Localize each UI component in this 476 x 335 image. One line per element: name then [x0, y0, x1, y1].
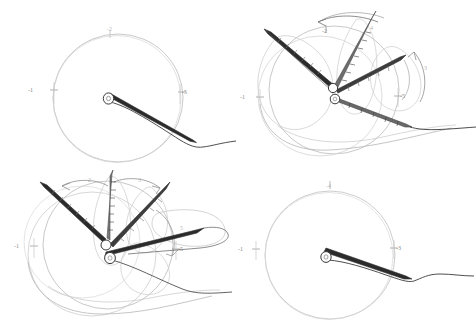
label-top-right: 3 — [138, 177, 141, 183]
label-top: -2 — [107, 26, 112, 32]
label-right: -3 — [396, 245, 401, 251]
panel-1-arm — [103, 93, 236, 147]
rotation-arrow-top-head — [318, 19, 326, 26]
label-left: -1 — [238, 246, 243, 252]
pivot-joint-upper — [328, 83, 337, 92]
panel-bottom-right: -4 -1 -3 — [238, 168, 476, 335]
label-left: -1 — [240, 94, 245, 100]
panel-bottom-left: 2 3 -1 -5 5 — [0, 168, 238, 335]
pivot-joint — [321, 252, 331, 263]
label-top-left: 2 — [88, 177, 91, 183]
pivot-joint-lower — [105, 252, 116, 263]
arm-d-tail — [410, 127, 476, 130]
label-right: -5 — [178, 246, 183, 252]
guide-sweep-lower-2 — [278, 125, 456, 142]
label-right: -5 — [400, 93, 405, 99]
arm-lower-curve — [110, 102, 236, 147]
rotation-arrow-top — [318, 16, 378, 22]
label-left: -1 — [28, 87, 33, 93]
arm-segment-main — [324, 248, 412, 279]
panel-4-arm — [321, 248, 474, 282]
panel-3-guides — [24, 176, 225, 316]
guide-circle-third — [24, 186, 140, 298]
arm-b — [107, 170, 113, 240]
figure-root: -2 -1 -5 — [0, 0, 476, 335]
guide-sweep-lower — [28, 262, 212, 314]
label-upper-right: 4 — [370, 25, 373, 31]
label-mid-right: 5 — [180, 225, 183, 231]
pivot-joint-upper — [101, 240, 111, 250]
panel-top-left: -2 -1 -5 — [0, 0, 238, 167]
arm-c — [336, 55, 406, 93]
label-right: -5 — [182, 89, 187, 95]
arm-b — [334, 11, 376, 89]
pivot-joint — [103, 93, 113, 104]
label-top: -4 — [326, 183, 331, 189]
panel-1-ticks — [50, 30, 186, 104]
arm-d-outline — [128, 227, 228, 254]
panel-3-arms — [40, 170, 232, 293]
guide-sweep-lower — [260, 104, 452, 150]
label-top: -2 — [322, 28, 327, 34]
panel-top-right: -2 -1 -5 4 3 — [238, 0, 476, 167]
guide-lobe-lower-right — [121, 243, 170, 295]
panel-2-guides — [258, 19, 456, 156]
guide-lobe-right — [370, 46, 420, 110]
pivot-joint-lower — [330, 94, 340, 104]
label-far-right: 3 — [424, 65, 427, 71]
label-left: -1 — [14, 243, 19, 249]
